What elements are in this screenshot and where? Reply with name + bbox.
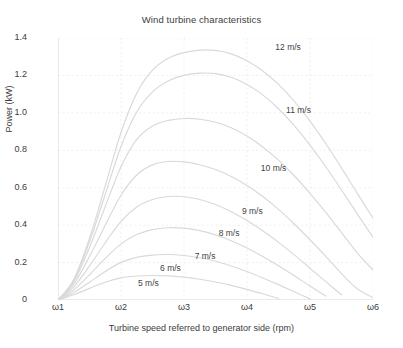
- series-label-10-ms: 10 m/s: [261, 163, 287, 173]
- series-label-12-ms: 12 m/s: [275, 42, 301, 52]
- plot-canvas: [58, 38, 373, 300]
- series-label-7-ms: 7 m/s: [195, 251, 216, 261]
- curve-10-ms: [58, 118, 373, 300]
- y-tick-label: 1.0: [0, 107, 27, 117]
- plot-area: 12 m/s11 m/s10 m/s9 m/s8 m/s7 m/s6 m/s5 …: [58, 38, 373, 300]
- x-tick-label: ω1: [41, 302, 75, 312]
- x-tick-label: ω2: [104, 302, 138, 312]
- series-label-6-ms: 6 m/s: [160, 263, 181, 273]
- x-axis-label: Turbine speed referred to generator side…: [0, 323, 403, 333]
- y-tick-label: 0: [0, 294, 27, 304]
- series-label-8-ms: 8 m/s: [219, 228, 240, 238]
- y-tick-label: 0.2: [0, 257, 27, 267]
- chart-figure: Wind turbine characteristics Power (kW) …: [0, 0, 403, 348]
- y-tick-label: 0.4: [0, 219, 27, 229]
- curve-5-ms: [58, 275, 279, 300]
- y-tick-label: 1.2: [0, 69, 27, 79]
- series-label-5-ms: 5 m/s: [138, 278, 159, 288]
- curve-9-ms: [58, 161, 373, 300]
- x-tick-label: ω4: [230, 302, 264, 312]
- x-tick-label: ω3: [167, 302, 201, 312]
- series-label-9-ms: 9 m/s: [242, 206, 263, 216]
- chart-title: Wind turbine characteristics: [0, 14, 403, 25]
- y-tick-label: 0.6: [0, 182, 27, 192]
- x-tick-label: ω6: [356, 302, 390, 312]
- y-tick-label: 0.8: [0, 144, 27, 154]
- series-label-11-ms: 11 m/s: [286, 105, 311, 115]
- y-tick-label: 1.4: [0, 32, 27, 42]
- x-tick-label: ω5: [293, 302, 327, 312]
